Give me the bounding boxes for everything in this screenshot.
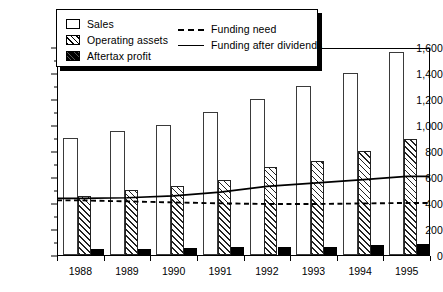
legend-item-sales: Sales	[66, 17, 168, 32]
legend-label-sales: Sales	[87, 18, 114, 30]
x-tick-mark	[244, 256, 245, 261]
legend-column-lines: Funding need Funding after dividends	[178, 22, 322, 54]
legend-label-operating-assets: Operating assets	[87, 34, 168, 46]
x-tick-label-1994: 1994	[348, 265, 371, 277]
dashed-line-icon	[178, 24, 204, 34]
x-tick-mark	[150, 256, 151, 261]
hatched-square-icon	[66, 35, 80, 45]
x-tick-label-1992: 1992	[255, 265, 278, 277]
chart-container: 02004006008001,0001,2001,4001,600 198819…	[0, 0, 443, 292]
legend-column-bars: Sales Operating assets Aftertax profit	[66, 17, 168, 65]
x-tick-label-1993: 1993	[302, 265, 325, 277]
legend-item-funding-after-dividends: Funding after dividends	[178, 38, 322, 53]
solid-line-icon	[178, 40, 204, 50]
x-tick-label-1988: 1988	[69, 265, 92, 277]
legend-item-operating-assets: Operating assets	[66, 33, 168, 48]
filled-square-icon	[66, 51, 80, 61]
x-tick-label-1991: 1991	[209, 265, 232, 277]
x-tick-mark	[104, 256, 105, 261]
x-tick-mark	[430, 256, 431, 261]
x-tick-label-1995: 1995	[395, 265, 418, 277]
legend-label-funding-need: Funding need	[211, 23, 276, 35]
legend-item-aftertax-profit: Aftertax profit	[66, 49, 168, 64]
x-tick-mark	[337, 256, 338, 261]
legend-item-funding-need: Funding need	[178, 22, 322, 37]
x-tick-label-1990: 1990	[162, 265, 185, 277]
open-square-icon	[66, 19, 80, 29]
x-tick-mark	[383, 256, 384, 261]
x-tick-mark	[57, 256, 58, 261]
x-tick-mark	[197, 256, 198, 261]
chart-legend: Sales Operating assets Aftertax profit F…	[56, 9, 318, 67]
x-tick-label-1989: 1989	[115, 265, 138, 277]
legend-label-funding-after-dividends: Funding after dividends	[211, 39, 322, 51]
line-funding-need	[57, 200, 430, 204]
x-tick-mark	[290, 256, 291, 261]
legend-label-aftertax-profit: Aftertax profit	[87, 50, 151, 62]
line-series-layer	[57, 48, 430, 256]
line-funding-after-dividends	[57, 176, 430, 198]
